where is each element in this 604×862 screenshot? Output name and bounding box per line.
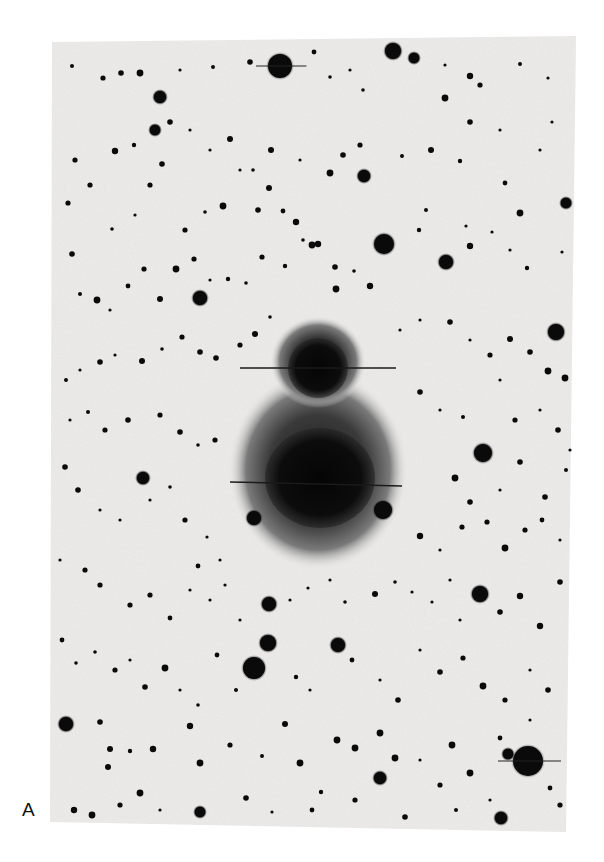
star — [191, 256, 196, 261]
star — [234, 688, 238, 692]
star — [203, 210, 207, 214]
star — [227, 136, 233, 142]
star — [542, 494, 548, 500]
star — [150, 746, 156, 752]
star — [168, 616, 173, 621]
star — [348, 68, 351, 71]
star — [518, 62, 522, 66]
star — [548, 786, 553, 791]
bright-star — [503, 749, 513, 759]
star — [97, 359, 103, 365]
star — [517, 593, 523, 599]
bright-star — [439, 255, 453, 269]
star — [68, 418, 71, 421]
star — [268, 315, 272, 319]
star — [498, 128, 501, 131]
star — [461, 415, 465, 419]
star — [502, 697, 507, 702]
star — [133, 213, 136, 216]
star — [128, 658, 131, 661]
star — [438, 408, 441, 411]
star — [557, 579, 563, 585]
star — [97, 582, 102, 587]
star — [537, 623, 543, 629]
star — [142, 684, 148, 690]
astronomical-plate-figure: A — [0, 0, 604, 862]
star — [252, 331, 258, 337]
star — [558, 538, 561, 541]
star — [340, 152, 346, 158]
star — [424, 208, 428, 212]
star — [546, 76, 549, 79]
star — [443, 63, 446, 66]
star — [215, 653, 220, 658]
star — [75, 487, 81, 493]
star — [112, 148, 118, 154]
star — [182, 517, 187, 522]
star — [484, 519, 489, 524]
star — [127, 602, 132, 607]
star — [498, 488, 501, 491]
star — [97, 719, 103, 725]
star — [418, 648, 421, 651]
star — [564, 468, 568, 472]
star — [107, 746, 113, 752]
star — [196, 443, 200, 447]
star — [212, 437, 217, 442]
star — [428, 147, 434, 153]
star — [507, 336, 513, 342]
star — [78, 292, 82, 296]
star — [334, 737, 341, 744]
star — [528, 718, 531, 721]
star — [555, 427, 561, 433]
star — [126, 284, 131, 289]
star — [538, 148, 541, 151]
star — [487, 352, 492, 357]
star — [93, 650, 97, 654]
star — [128, 749, 132, 753]
star — [64, 378, 68, 382]
star — [467, 499, 473, 505]
star — [319, 790, 323, 794]
star — [357, 142, 362, 147]
star — [58, 558, 61, 561]
nebula-lower-core — [265, 428, 375, 528]
star — [332, 264, 338, 270]
star — [448, 578, 451, 581]
star — [293, 219, 299, 225]
star — [220, 203, 227, 210]
star — [392, 755, 399, 762]
star — [187, 723, 193, 729]
star — [227, 742, 232, 747]
star — [568, 448, 571, 451]
star — [447, 319, 453, 325]
bright-star — [548, 324, 564, 340]
star — [177, 429, 183, 435]
bright-star — [495, 812, 507, 824]
star — [430, 600, 433, 603]
star — [498, 378, 501, 381]
star — [452, 475, 459, 482]
star — [378, 678, 381, 681]
star — [333, 286, 340, 293]
star — [525, 266, 529, 270]
star — [508, 248, 511, 251]
star — [395, 697, 401, 703]
star — [208, 598, 211, 601]
star — [168, 485, 172, 489]
bright-star — [358, 170, 370, 182]
star — [418, 758, 421, 761]
star — [418, 318, 421, 321]
bright-star — [195, 807, 205, 817]
star — [498, 736, 503, 741]
star — [218, 558, 221, 561]
star — [490, 230, 493, 233]
bright-star — [59, 717, 73, 731]
star — [437, 669, 443, 675]
star — [438, 548, 441, 551]
star — [540, 518, 545, 523]
star — [89, 812, 96, 819]
star — [244, 281, 248, 285]
star — [400, 154, 404, 158]
star — [562, 375, 569, 382]
